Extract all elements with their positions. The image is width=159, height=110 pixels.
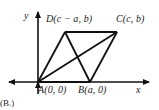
- vertex-label-C: C(c, b): [116, 14, 144, 24]
- vertex-label-D: D(c − a, b): [46, 14, 92, 24]
- x-axis-label: x: [136, 85, 140, 95]
- vertex-label-B: B(a, 0): [78, 85, 106, 95]
- vertex-label-A: A(0, 0): [38, 85, 66, 95]
- diagonal-DB: [65, 32, 90, 82]
- y-axis-label: y: [24, 11, 28, 21]
- figure-container: D(c − a, b) C(c, b) A(0, 0) B(a, 0) x y …: [0, 0, 159, 110]
- cropped-caption-fragment: (B.): [0, 99, 14, 110]
